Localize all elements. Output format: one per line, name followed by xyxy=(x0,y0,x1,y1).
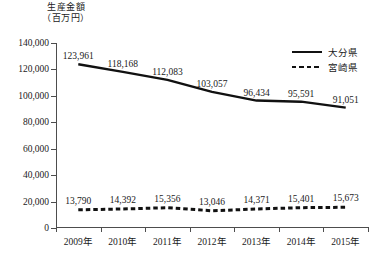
y-axis-tick-label: 40,000 xyxy=(23,170,49,180)
data-point-label: 96,434 xyxy=(244,88,270,98)
legend-key-solid-line-icon xyxy=(292,47,322,57)
y-axis-tick-label: 120,000 xyxy=(18,64,49,74)
legend-label-series-1: 宮崎県 xyxy=(328,60,358,74)
x-axis-tick-label: 2012年 xyxy=(198,234,227,248)
line-chart: 生産金額 （百万円） 020,00040,00060,00080,000100,… xyxy=(0,0,384,257)
x-axis-tick-label: 2013年 xyxy=(242,234,271,248)
legend: 大分県 宮崎県 xyxy=(292,44,358,74)
data-point-label: 91,051 xyxy=(333,95,359,105)
data-point-label: 118,168 xyxy=(108,59,139,69)
legend-label-series-0: 大分県 xyxy=(328,45,358,59)
data-point-label: 112,083 xyxy=(152,67,183,77)
x-axis-tick xyxy=(368,227,369,232)
legend-key-dashed-line-icon xyxy=(292,62,322,72)
x-axis-tick-label: 2011年 xyxy=(153,234,182,248)
y-axis-tick-label: 0 xyxy=(44,223,49,233)
y-axis-unit-text: （百万円） xyxy=(28,13,104,24)
series-line-1 xyxy=(78,207,345,210)
data-point-label: 13,046 xyxy=(199,197,225,207)
data-point-label: 14,371 xyxy=(244,195,270,205)
data-point-label: 15,401 xyxy=(288,194,314,204)
data-point-label: 13,790 xyxy=(65,196,91,206)
x-axis-tick-label: 2009年 xyxy=(64,234,93,248)
data-point-label: 123,961 xyxy=(63,51,94,61)
legend-item-series-1[interactable]: 宮崎県 xyxy=(292,59,358,74)
y-axis-title-text: 生産金額 xyxy=(28,2,104,13)
y-axis-tick-label: 80,000 xyxy=(23,117,49,127)
data-point-label: 15,673 xyxy=(333,193,359,203)
data-point-label: 95,591 xyxy=(288,89,314,99)
x-axis-tick-label: 2010年 xyxy=(108,234,137,248)
y-axis-tick-label: 140,000 xyxy=(18,38,49,48)
legend-item-series-0[interactable]: 大分県 xyxy=(292,44,358,59)
data-point-label: 15,356 xyxy=(154,194,180,204)
y-axis-tick-label: 100,000 xyxy=(18,91,49,101)
y-axis-tick-label: 60,000 xyxy=(23,144,49,154)
x-axis-tick-label: 2014年 xyxy=(287,234,316,248)
y-axis-title: 生産金額 （百万円） xyxy=(28,2,104,24)
x-axis-tick-label: 2015年 xyxy=(331,234,360,248)
y-axis-tick-label: 20,000 xyxy=(23,197,49,207)
data-point-label: 14,392 xyxy=(110,195,136,205)
data-point-label: 103,057 xyxy=(197,79,228,89)
